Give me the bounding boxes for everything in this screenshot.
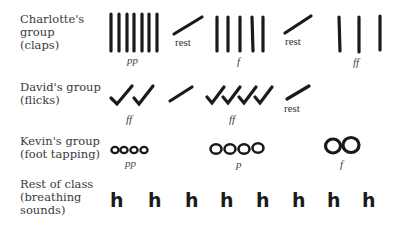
- tap-group-p: [211, 143, 264, 154]
- dynamic-pp: pp: [127, 54, 138, 66]
- breath-h-6: h: [292, 191, 306, 210]
- tap-group-f: [326, 138, 360, 154]
- flick-slash: [170, 87, 192, 101]
- breath-h-7: h: [327, 191, 341, 210]
- rest-label-1: rest: [175, 36, 191, 48]
- flick-group-2: [207, 87, 272, 103]
- breath-h-5: h: [256, 191, 270, 210]
- dynamic-pp-2: pp: [125, 157, 136, 169]
- dynamic-ff-2: ff: [126, 113, 132, 125]
- dynamic-ff-3: ff: [229, 113, 235, 125]
- rest-slash-2: [285, 16, 311, 33]
- clap-group-ff: [339, 16, 380, 52]
- breath-h-2: h: [148, 191, 162, 210]
- rest-label-3: rest: [284, 102, 300, 114]
- dynamic-f-2: f: [340, 158, 343, 170]
- rest-slash-3: [287, 86, 309, 99]
- breath-h-3: h: [185, 191, 199, 210]
- dynamic-ff: ff: [353, 56, 359, 68]
- flick-group-1: [111, 86, 153, 104]
- breath-h-8: h: [362, 191, 376, 210]
- breath-h-1: h: [110, 191, 124, 210]
- dynamic-f: f: [237, 55, 240, 67]
- dynamic-p: p: [236, 158, 242, 170]
- clap-group-pp: [111, 14, 157, 51]
- clap-group-f: [217, 17, 263, 51]
- score-symbols: [0, 0, 401, 227]
- tap-group-pp: [111, 147, 147, 153]
- rest-slash-1: [174, 17, 202, 34]
- breath-h-4: h: [220, 191, 234, 210]
- rest-label-2: rest: [285, 35, 301, 47]
